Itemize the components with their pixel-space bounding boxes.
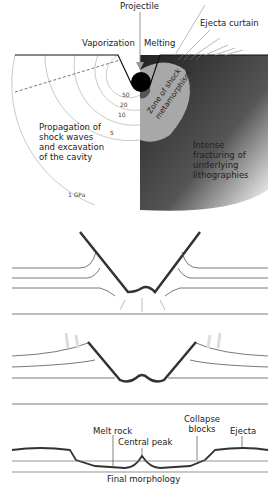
contour-50: 50 [122,90,130,100]
contour-5: 5 [110,128,114,138]
label-projectile: Projectile [120,1,159,11]
label-intense-fracturing: Intense fracturing of underlying lithogr… [193,140,255,180]
label-propagation: Propagation of shock waves and excavatio… [39,122,111,162]
label-central-peak: Central peak [118,437,172,447]
contour-20: 20 [120,100,128,110]
label-collapse-blocks: Collapse blocks [182,414,222,434]
panel-excavation [12,232,268,314]
panel-modification [12,333,268,404]
contour-1gpa: 1 GPa [68,190,85,200]
label-ejecta: Ejecta [230,426,256,436]
label-melt-rock: Melt rock [93,426,132,436]
label-vaporization: Vaporization [82,38,135,48]
label-ejecta-curtain: Ejecta curtain [200,18,259,28]
contour-10: 10 [118,110,126,120]
crater-formation-diagram [0,0,279,484]
label-melting: Melting [144,38,175,48]
label-final-morphology: Final morphology [107,474,180,484]
